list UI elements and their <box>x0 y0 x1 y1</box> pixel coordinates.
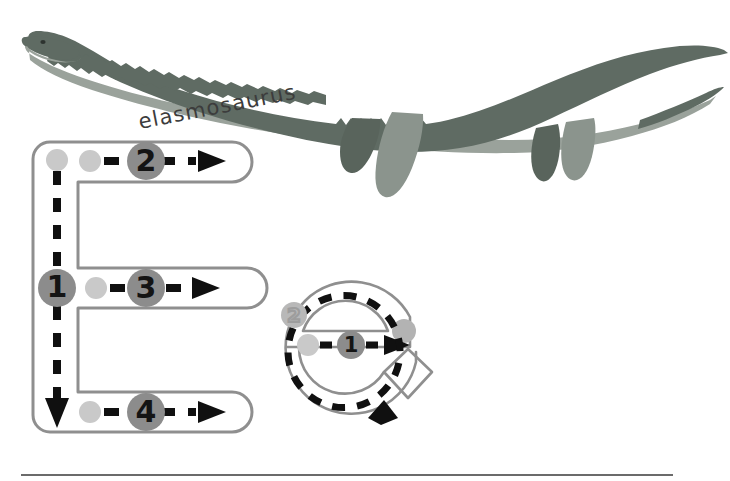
uppercase-stroke-2-start-dot <box>79 150 101 172</box>
uppercase-step-3-label: 3 <box>136 270 157 305</box>
uppercase-stroke-3-start-dot <box>85 277 107 299</box>
uppercase-stroke-4-start-dot <box>79 401 101 423</box>
elasmosaurus-eye <box>40 40 45 44</box>
lowercase-stroke-1-start-dot <box>297 334 319 356</box>
uppercase-stroke-1-start-dot <box>46 149 68 171</box>
uppercase-step-4-label: 4 <box>136 394 157 429</box>
lowercase-step-2-label: 2 <box>287 303 301 327</box>
lowercase-step-1-label: 1 <box>344 333 359 357</box>
worksheet-canvas: elasmosaurus 1 2 <box>0 0 730 481</box>
worksheet-page: elasmosaurus 1 2 <box>0 0 730 481</box>
uppercase-step-2-label: 2 <box>136 143 157 178</box>
uppercase-step-1-label: 1 <box>47 269 68 304</box>
